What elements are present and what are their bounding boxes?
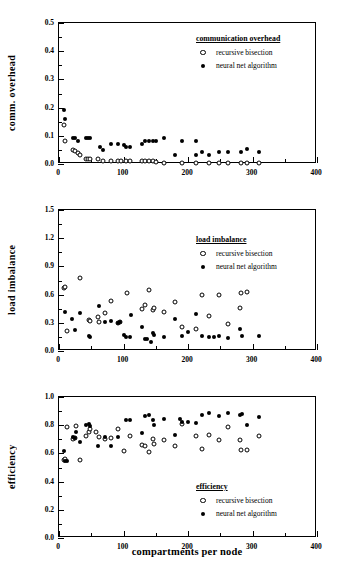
- data-point: [244, 447, 249, 452]
- data-point: [212, 335, 216, 339]
- data-point: [217, 414, 221, 418]
- y-tick-label: 0.2: [32, 504, 54, 513]
- x-tick-minor: [285, 346, 286, 350]
- data-point: [162, 417, 166, 421]
- data-point: [216, 161, 221, 166]
- y-tick-minor: [58, 411, 62, 412]
- data-point: [238, 327, 242, 331]
- y-tick: [58, 238, 64, 239]
- data-point: [153, 159, 158, 164]
- data-point: [162, 310, 167, 315]
- y-axis-label-panel-2: load imbalance: [6, 209, 17, 350]
- data-point: [147, 287, 152, 292]
- data-point: [238, 447, 243, 452]
- data-point: [103, 435, 107, 439]
- data-point: [152, 333, 156, 337]
- x-tick: [59, 344, 60, 350]
- open-circle-icon: [196, 251, 210, 257]
- data-point: [217, 334, 221, 338]
- data-point: [88, 424, 92, 428]
- y-tick-label: 0.0: [32, 346, 54, 355]
- data-point: [127, 158, 132, 163]
- x-tick: [317, 531, 318, 537]
- data-point: [97, 304, 101, 308]
- panel-load-imbalance: load imbalance load imbalance recursive …: [0, 187, 347, 374]
- data-point: [65, 425, 70, 430]
- data-point: [257, 415, 261, 419]
- x-tick-minor: [285, 533, 286, 537]
- x-tick: [59, 157, 60, 163]
- data-point: [193, 434, 198, 439]
- data-point: [87, 156, 92, 161]
- data-point: [103, 311, 108, 316]
- y-tick-minor: [58, 468, 62, 469]
- data-point: [140, 431, 144, 435]
- legend-title-panel-3: efficiency: [196, 482, 277, 491]
- data-point: [140, 325, 144, 329]
- y-tick-label: 1.0: [32, 392, 54, 401]
- data-point: [74, 430, 78, 434]
- legend-panel-2: load imbalance recursive bisection neura…: [196, 235, 277, 271]
- y-tick: [58, 23, 64, 24]
- data-point: [180, 139, 184, 143]
- x-tick-label: 300: [246, 542, 257, 551]
- data-point: [121, 448, 126, 453]
- y-tick-minor: [58, 224, 62, 225]
- data-point: [142, 443, 147, 448]
- data-point: [173, 444, 178, 449]
- data-point: [151, 418, 155, 422]
- data-point: [216, 292, 221, 297]
- data-point: [74, 423, 79, 428]
- data-point: [154, 139, 158, 143]
- y-tick-label: 0.4: [32, 46, 54, 55]
- data-point: [128, 145, 132, 149]
- y-tick-label: 0.8: [32, 420, 54, 429]
- data-point: [70, 317, 74, 321]
- data-point: [116, 142, 120, 146]
- panel-efficiency: efficiency efficiency recursive bisectio…: [0, 374, 347, 561]
- y-tick-minor: [58, 94, 62, 95]
- y-tick-minor: [58, 439, 62, 440]
- data-point: [200, 150, 204, 154]
- x-tick-label: 200: [181, 168, 192, 177]
- data-point: [73, 436, 77, 440]
- x-tick: [317, 157, 318, 163]
- y-tick-label: 0.3: [32, 74, 54, 83]
- data-point: [116, 426, 121, 431]
- data-point: [162, 438, 167, 443]
- data-point: [179, 324, 184, 329]
- data-point: [65, 329, 70, 334]
- data-point: [173, 153, 177, 157]
- data-point: [194, 312, 198, 316]
- data-point: [179, 161, 184, 166]
- data-point: [87, 318, 92, 323]
- data-point: [207, 161, 212, 166]
- data-point: [193, 327, 198, 332]
- data-point: [162, 160, 167, 165]
- data-point: [103, 320, 107, 324]
- data-point: [207, 153, 211, 157]
- data-point: [173, 300, 178, 305]
- x-tick: [253, 531, 254, 537]
- data-point: [152, 441, 157, 446]
- y-tick-minor: [58, 337, 62, 338]
- legend-panel-1: communication overhead recursive bisecti…: [196, 34, 280, 70]
- y-tick: [58, 210, 64, 211]
- y-tick-label: 0.2: [32, 102, 54, 111]
- legend-entry-neural-net: neural net algorithm: [196, 262, 277, 271]
- x-tick-minor: [285, 159, 286, 163]
- data-point: [194, 153, 198, 157]
- data-point: [152, 423, 156, 427]
- data-point: [180, 334, 184, 338]
- figure-scatter-panels: comm. overhead communication overhead re…: [0, 0, 347, 561]
- data-point: [256, 160, 261, 165]
- data-point: [101, 148, 105, 152]
- data-point: [108, 435, 113, 440]
- data-point: [109, 444, 113, 448]
- y-tick: [58, 164, 64, 165]
- x-tick: [188, 157, 189, 163]
- filled-circle-icon: [196, 265, 210, 269]
- data-point: [238, 438, 243, 443]
- x-tick: [317, 344, 318, 350]
- data-point: [200, 413, 204, 417]
